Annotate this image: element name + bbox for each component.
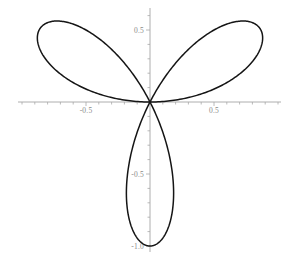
polar-rose-plot: -0.5 0.5 0.5 -0.5 -1.0 bbox=[0, 0, 297, 255]
x-tick-label-pos-half: 0.5 bbox=[209, 106, 219, 115]
y-axis-ticks bbox=[146, 16, 150, 246]
x-tick-label-neg-half: -0.5 bbox=[80, 106, 93, 115]
y-tick-label-pos-half: 0.5 bbox=[134, 26, 144, 35]
plot-canvas: -0.5 0.5 0.5 -0.5 -1.0 bbox=[0, 0, 297, 255]
y-tick-label-neg-half: -0.5 bbox=[131, 170, 144, 179]
